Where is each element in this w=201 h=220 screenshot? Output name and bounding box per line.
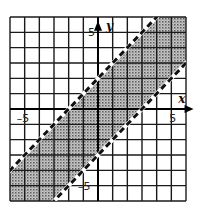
y-axis-label: y <box>105 19 114 33</box>
y-axis-arrow-icon <box>94 21 102 31</box>
x-tick-label: –5 <box>17 112 30 125</box>
y-tick-label: –5 <box>78 180 91 193</box>
x-tick-label: 5 <box>169 112 176 125</box>
y-tick-label: 5 <box>88 26 95 39</box>
x-axis-label: x <box>177 92 186 106</box>
coordinate-plane-graph: –555–5yx <box>0 0 201 220</box>
x-axis-arrow-icon <box>185 105 194 113</box>
